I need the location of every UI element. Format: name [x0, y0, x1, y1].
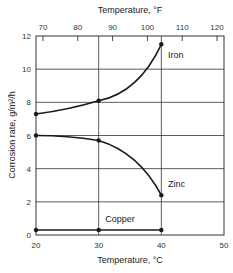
x-tick-label: 40: [157, 241, 166, 250]
data-point-iron: [96, 98, 100, 102]
x2-tick-label: 120: [210, 23, 224, 32]
data-point-copper: [34, 228, 38, 232]
data-point-zinc: [34, 133, 38, 137]
y-tick-label: 2: [27, 198, 32, 207]
y-tick-label: 10: [22, 65, 31, 74]
x2-tick-label: 80: [73, 23, 82, 32]
series-label-copper: Copper: [105, 214, 135, 224]
x2-tick-label: 70: [39, 23, 48, 32]
y-axis-title: Corrosion rate, g/m²/h: [7, 91, 17, 179]
data-point-copper: [159, 228, 163, 232]
x-axis-ticks: 20304050: [32, 241, 229, 250]
x-tick-label: 50: [220, 241, 229, 250]
x2-tick-label: 110: [176, 23, 189, 32]
x-tick-label: 20: [32, 241, 41, 250]
data-point-zinc: [96, 138, 100, 142]
x-tick-label: 30: [94, 241, 103, 250]
y-tick-label: 0: [27, 231, 32, 240]
y-tick-label: 6: [27, 132, 32, 141]
top-axis-title: Temperature, °F: [98, 5, 163, 15]
data-point-zinc: [159, 193, 163, 197]
y-tick-label: 8: [27, 98, 32, 107]
series-label-zinc: Zinc: [168, 179, 186, 189]
x2-tick-label: 100: [141, 23, 155, 32]
series-label-iron: Iron: [168, 50, 184, 60]
y-tick-label: 12: [22, 32, 31, 41]
grid-lines: [36, 36, 224, 235]
data-point-iron: [34, 112, 38, 116]
data-point-copper: [96, 228, 100, 232]
x2-axis-ticks: 708090100110120: [39, 23, 225, 41]
y-axis-ticks: 024681012: [22, 32, 31, 240]
bottom-axis-title: Temperature, °C: [97, 255, 163, 265]
y-tick-label: 4: [27, 165, 32, 174]
x2-tick-label: 90: [108, 23, 117, 32]
corrosion-rate-chart: 20304050 708090100110120 024681012 Tempe…: [0, 0, 233, 273]
data-point-iron: [159, 42, 163, 46]
